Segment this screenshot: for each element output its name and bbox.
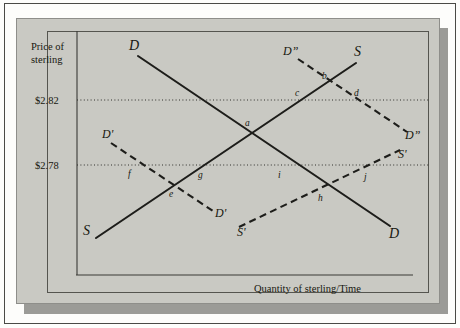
point-label-i: i	[278, 170, 281, 180]
y-tick-label-282: $2.82	[35, 95, 59, 106]
point-label-d: d	[354, 88, 359, 98]
curve-label-S-prime-left: S'	[237, 225, 246, 239]
curve-label-D-prime-left: D'	[101, 127, 114, 141]
curve-labels-group: D D S S D' D' D” D” S' S'	[83, 38, 421, 241]
x-axis-label: Quantity of sterling/Time	[254, 283, 361, 294]
curve-label-S-prime-right: S'	[398, 147, 407, 161]
point-label-c: c	[295, 88, 300, 98]
economics-supply-demand-plot: Price of sterling $2.82 $2.78 Quantity o…	[17, 19, 441, 305]
curve-label-D-bottom-right: D	[388, 226, 399, 241]
y-tick-label-278: $2.78	[35, 160, 59, 171]
y-axis-label-line1: Price of	[31, 41, 64, 52]
original-curves-group	[96, 56, 390, 238]
point-label-h: h	[318, 193, 323, 203]
y-axis-label-line2: sterling	[31, 54, 63, 65]
curve-label-S-bottom-left: S	[83, 223, 90, 238]
curve-label-D-double-prime-right: D”	[404, 128, 421, 142]
curve-label-D-prime-right: D'	[214, 206, 227, 220]
curve-label-S-top-right: S	[354, 44, 361, 59]
figure-gray-panel: Price of sterling $2.82 $2.78 Quantity o…	[16, 18, 440, 304]
curve-label-D-top: D	[128, 38, 139, 53]
demand-curve-D-double-prime	[298, 59, 407, 132]
figure-root: Price of sterling $2.82 $2.78 Quantity o…	[0, 0, 460, 328]
point-label-b: b	[322, 71, 327, 81]
demand-curve-D	[138, 56, 390, 226]
point-label-g: g	[198, 170, 203, 180]
curve-label-D-double-prime-left: D”	[282, 44, 299, 58]
point-label-a: a	[245, 118, 250, 128]
point-label-f: f	[128, 169, 132, 179]
point-label-j: j	[362, 172, 367, 182]
point-label-e: e	[169, 189, 173, 199]
axis-labels-group: Price of sterling $2.82 $2.78 Quantity o…	[31, 41, 361, 294]
shifted-curves-group	[111, 59, 407, 227]
